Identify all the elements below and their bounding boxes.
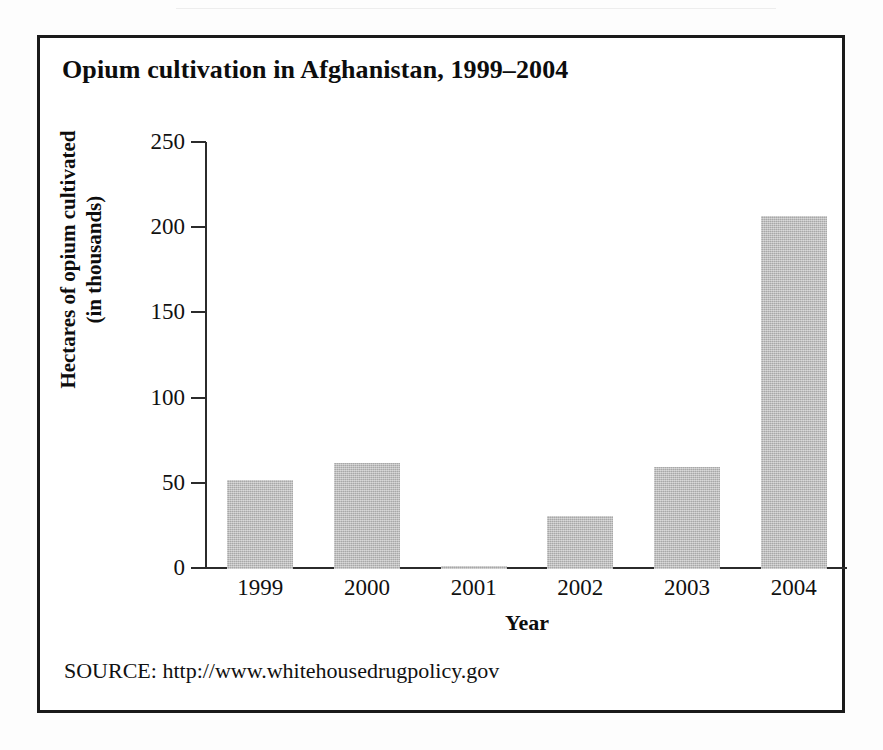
bar-2003 xyxy=(654,467,720,569)
bar-1999 xyxy=(227,480,293,569)
y-tick-mark xyxy=(191,397,206,399)
x-axis-title: Year xyxy=(207,610,847,636)
bar-series xyxy=(207,142,847,569)
x-tick-label-1999: 1999 xyxy=(207,575,314,600)
x-tick-label-2001: 2001 xyxy=(420,575,527,600)
y-tick-label: 50 xyxy=(73,470,185,493)
y-axis-title-line-2: (in thousands) xyxy=(82,80,108,440)
y-tick-label: 0 xyxy=(73,556,185,579)
scan-artifact-line xyxy=(176,8,776,9)
y-tick-mark xyxy=(191,311,206,313)
y-axis-title-line-1: Hectares of opium cultivated xyxy=(56,131,80,389)
bar-2001 xyxy=(441,566,507,569)
x-tick-label-2002: 2002 xyxy=(527,575,634,600)
plot-area: 050100150200250 199920002001200220032004… xyxy=(40,38,842,710)
source-note: SOURCE: http://www.whitehousedrugpolicy.… xyxy=(64,658,499,684)
figure-frame: Opium cultivation in Afghanistan, 1999–2… xyxy=(37,35,845,713)
bar-2000 xyxy=(334,463,400,569)
bar-2002 xyxy=(547,516,613,569)
y-tick-mark xyxy=(191,226,206,228)
y-tick-mark xyxy=(191,482,206,484)
y-tick-mark xyxy=(191,567,206,569)
x-axis-tick-labels: 199920002001200220032004 xyxy=(207,575,847,607)
y-tick-mark xyxy=(191,141,206,143)
x-tick-label-2000: 2000 xyxy=(314,575,421,600)
bar-2004 xyxy=(761,216,827,569)
x-tick-label-2003: 2003 xyxy=(634,575,741,600)
x-tick-label-2004: 2004 xyxy=(740,575,847,600)
y-axis-title: Hectares of opium cultivated (in thousan… xyxy=(56,80,107,440)
